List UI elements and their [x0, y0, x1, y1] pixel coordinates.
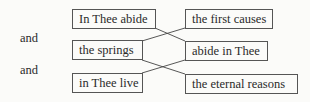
- conjunction-label: and: [20, 63, 38, 78]
- right-box: the eternal reasons: [185, 74, 298, 94]
- right-box: the first causes: [185, 9, 273, 29]
- left-box: In Thee abide: [72, 9, 156, 29]
- chiasm-diagram: and and In Thee abide the springs in The…: [0, 0, 310, 102]
- left-box: in Thee live: [72, 73, 143, 93]
- right-box: abide in Thee: [185, 41, 268, 61]
- conjunction-label: and: [20, 31, 38, 46]
- left-box: the springs: [72, 40, 143, 60]
